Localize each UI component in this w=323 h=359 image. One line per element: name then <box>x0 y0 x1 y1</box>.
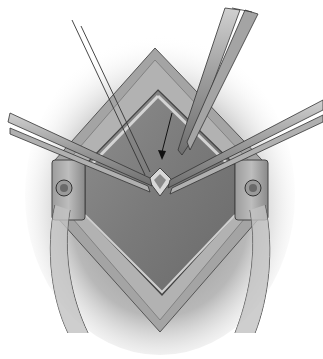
surgical-illustration <box>0 0 323 359</box>
illustration-canvas <box>0 0 323 359</box>
